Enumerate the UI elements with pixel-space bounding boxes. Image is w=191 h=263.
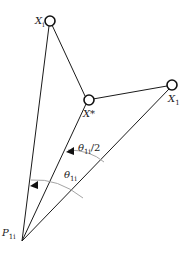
arrow-icon-theta-half [66,147,74,155]
edge-p-xi [22,26,49,241]
edges [22,25,169,241]
edge-p-xstar [22,104,86,241]
edge-xstar-x1 [93,86,167,99]
nodes [45,16,177,105]
node-xi-circle [45,16,55,26]
arrow-icon-theta-full [30,181,38,189]
label-xi: Xi [34,15,45,29]
label-p1i: P1i [1,227,16,241]
angle-bisector-diagram: Xi X* X1 P1i θ1i/2 θ1i [0,0,191,263]
label-theta-half: θ1i/2 [78,142,100,156]
label-x1: X1 [167,93,180,107]
edge-xi-xstar [52,25,85,96]
edge-p-x1 [22,89,169,241]
label-xstar: X* [82,108,95,119]
label-theta-full: θ1i [64,169,77,183]
node-xstar-circle [84,95,94,105]
node-x1-circle [167,80,177,90]
